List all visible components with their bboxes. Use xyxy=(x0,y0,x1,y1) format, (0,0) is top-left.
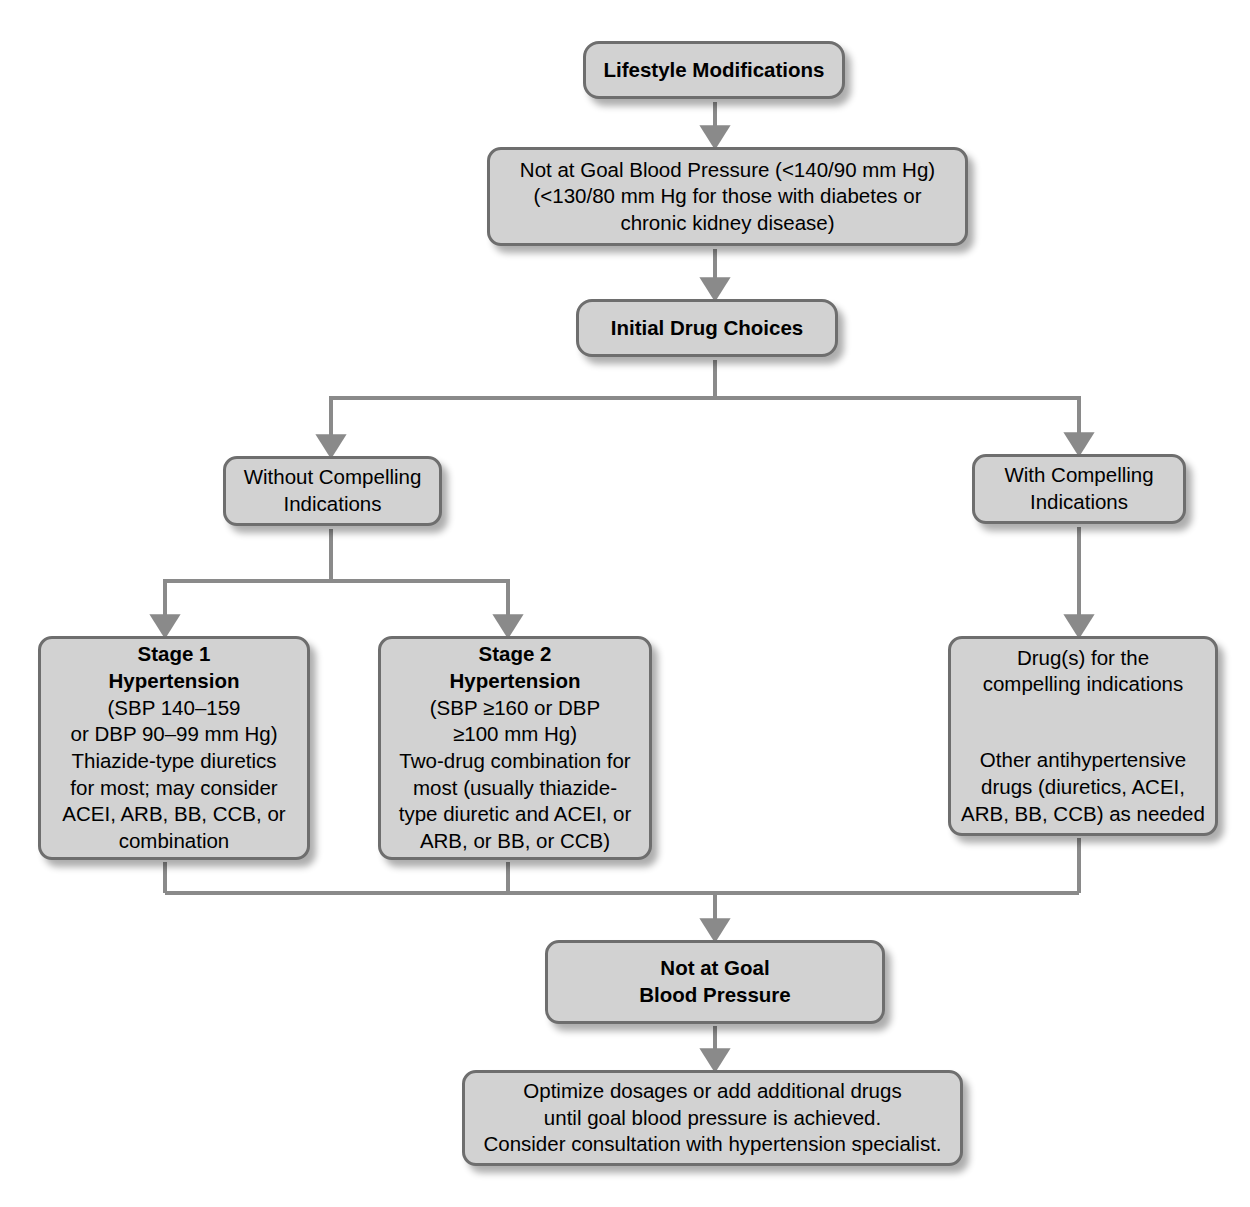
node-drugs-for-compelling-indications-body-secondary: Other antihypertensive drugs (diuretics,… xyxy=(959,747,1207,827)
node-initial-drug-choices-label: Initial Drug Choices xyxy=(587,315,827,342)
node-not-at-goal-blood-pressure-top-label: Not at Goal Blood Pressure (<140/90 mm H… xyxy=(498,157,957,237)
node-stage-1-hypertension-body: (SBP 140–159 or DBP 90–99 mm Hg) Thiazid… xyxy=(49,695,299,855)
node-with-compelling-indications[interactable]: With Compelling Indications xyxy=(972,454,1186,524)
node-without-compelling-indications-label: Without Compelling Indications xyxy=(234,464,431,517)
flowchart-canvas: Lifestyle Modifications Not at Goal Bloo… xyxy=(0,0,1250,1207)
node-without-compelling-indications[interactable]: Without Compelling Indications xyxy=(223,456,442,526)
node-optimize-dosages-label: Optimize dosages or add additional drugs… xyxy=(473,1078,952,1158)
node-lifestyle-modifications[interactable]: Lifestyle Modifications xyxy=(583,41,845,99)
node-stage-2-hypertension[interactable]: Stage 2 Hypertension(SBP ≥160 or DBP ≥10… xyxy=(378,636,652,860)
node-drugs-for-compelling-indications[interactable]: Drug(s) for the compelling indications O… xyxy=(948,636,1218,836)
node-not-at-goal-blood-pressure-bottom-label: Not at Goal Blood Pressure xyxy=(556,955,874,1008)
node-initial-drug-choices[interactable]: Initial Drug Choices xyxy=(576,299,838,357)
node-not-at-goal-blood-pressure-top[interactable]: Not at Goal Blood Pressure (<140/90 mm H… xyxy=(487,147,968,246)
node-stage-1-hypertension[interactable]: Stage 1 Hypertension(SBP 140–159 or DBP … xyxy=(38,636,310,860)
node-stage-1-hypertension-heading: Stage 1 Hypertension xyxy=(49,641,299,694)
node-optimize-dosages[interactable]: Optimize dosages or add additional drugs… xyxy=(462,1070,963,1166)
node-stage-2-hypertension-heading: Stage 2 Hypertension xyxy=(389,641,641,694)
node-drugs-for-compelling-indications-body: Drug(s) for the compelling indications xyxy=(959,645,1207,698)
node-stage-2-hypertension-body: (SBP ≥160 or DBP ≥100 mm Hg) Two-drug co… xyxy=(389,695,641,855)
node-lifestyle-modifications-label: Lifestyle Modifications xyxy=(594,57,834,84)
node-with-compelling-indications-label: With Compelling Indications xyxy=(983,462,1175,515)
node-not-at-goal-blood-pressure-bottom[interactable]: Not at Goal Blood Pressure xyxy=(545,940,885,1024)
